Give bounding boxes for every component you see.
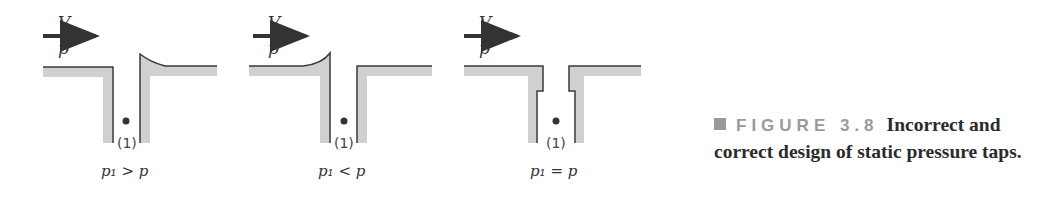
panel-1: V p (1) p₁ > p (43, 12, 217, 180)
wall-right (569, 66, 641, 143)
wall-right (140, 54, 217, 143)
wall-left (464, 66, 543, 143)
figure-tag: FIGURE 3.8 (736, 116, 879, 135)
measurement-point (341, 118, 348, 125)
wall-left (43, 67, 113, 143)
measurement-point (123, 118, 130, 125)
point-label: (1) (546, 135, 566, 151)
pressure-relation: p₁ < p (318, 162, 366, 180)
panel-2: V p (1) p₁ < p (249, 12, 432, 180)
wall-right (357, 66, 432, 143)
pressure-label: p (479, 38, 490, 58)
point-label: (1) (117, 135, 137, 151)
figure-caption: FIGURE 3.8Incorrect and correct design o… (714, 112, 1044, 165)
pressure-relation: p₁ = p (530, 162, 578, 180)
panel-3: V p (1) p₁ = p (464, 12, 641, 180)
velocity-label: V (58, 12, 72, 32)
measurement-point (553, 118, 560, 125)
velocity-label: V (268, 12, 282, 32)
pressure-label: p (58, 38, 69, 58)
pressure-tap-diagram: V p (1) p₁ > p V p (1) p₁ < p V p (0, 0, 700, 199)
point-label: (1) (334, 135, 354, 151)
pressure-label: p (268, 38, 279, 58)
caption-square-icon (714, 118, 726, 130)
pressure-relation: p₁ > p (101, 162, 149, 180)
velocity-label: V (479, 12, 493, 32)
